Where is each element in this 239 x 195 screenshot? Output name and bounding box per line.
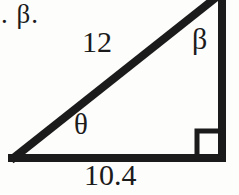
- sentence-fragment-text: . β.: [1, 1, 39, 28]
- hypotenuse-length-label: 12: [82, 27, 112, 57]
- base-length-label: 10.4: [84, 160, 137, 190]
- theta-angle-label: θ: [74, 110, 88, 139]
- geometry-figure: . β. 12 β θ 10.4: [0, 0, 239, 195]
- beta-angle-label: β: [192, 24, 207, 54]
